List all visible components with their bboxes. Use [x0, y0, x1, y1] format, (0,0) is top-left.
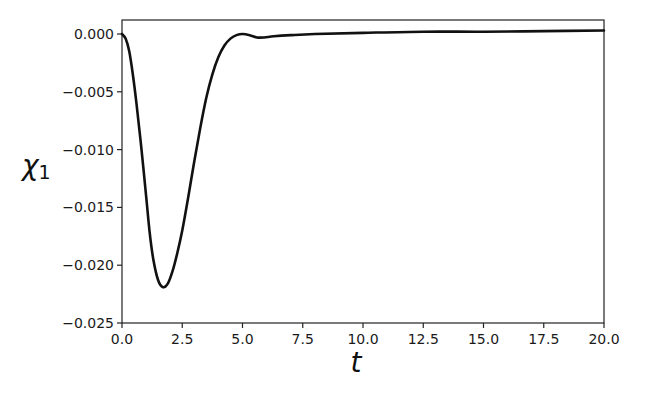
- x-tick-label: 7.5: [292, 331, 314, 347]
- y-tick-label: −0.010: [62, 142, 114, 158]
- line-chart: 0.02.55.07.510.012.515.017.520.0 0.000−0…: [0, 0, 654, 395]
- x-tick-label: 15.0: [468, 331, 499, 347]
- x-tick-label: 10.0: [347, 331, 378, 347]
- x-tick-label: 17.5: [528, 331, 559, 347]
- y-tick-label: −0.005: [62, 84, 114, 100]
- x-tick-label: 20.0: [588, 331, 619, 347]
- y-axis-label-subscript: 1: [39, 161, 51, 183]
- x-tick-label: 0.0: [111, 331, 133, 347]
- y-axis-label: χ1: [20, 149, 51, 183]
- x-axis: 0.02.55.07.510.012.515.017.520.0: [111, 323, 620, 347]
- y-axis: 0.000−0.005−0.010−0.015−0.020−0.025: [62, 26, 122, 331]
- x-tick-label: 12.5: [408, 331, 439, 347]
- y-tick-label: 0.000: [74, 26, 114, 42]
- x-tick-label: 2.5: [171, 331, 193, 347]
- y-tick-label: −0.025: [62, 315, 114, 331]
- y-axis-label-symbol: χ: [20, 149, 40, 182]
- x-tick-label: 5.0: [231, 331, 253, 347]
- x-axis-label: t: [351, 346, 363, 379]
- plot-frame: [122, 20, 604, 323]
- series-line-chi-1: [122, 31, 604, 288]
- y-tick-label: −0.015: [62, 199, 114, 215]
- y-tick-label: −0.020: [62, 257, 114, 273]
